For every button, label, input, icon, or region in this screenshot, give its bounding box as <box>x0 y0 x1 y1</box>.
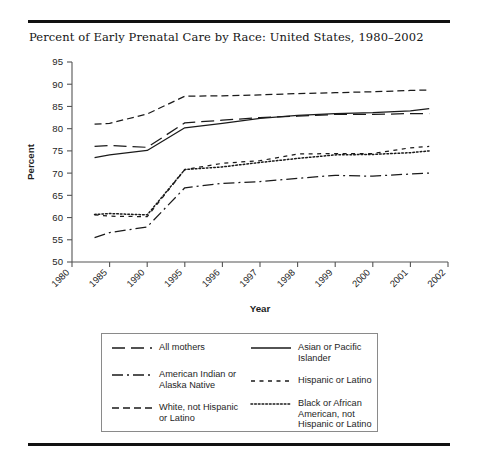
x-axis-tick-label: 1997 <box>237 267 260 290</box>
y-axis-ticks: 50556065707580859095 <box>52 56 72 267</box>
series-line <box>95 173 430 237</box>
x-axis-tick-label: 1995 <box>162 267 185 290</box>
legend-item: Black or African American, not Hispanic … <box>250 398 372 430</box>
line-chart-svg: 50556065707580859095 1980198519901995199… <box>0 50 478 320</box>
figure-container: Percent of Early Prenatal Care by Race: … <box>0 0 478 461</box>
series-line <box>95 90 430 124</box>
series-line <box>95 109 430 158</box>
legend-swatch <box>111 402 153 414</box>
legend-line-swatch-icon <box>250 398 292 410</box>
y-axis-tick-label: 70 <box>52 168 63 179</box>
legend-line-swatch-icon <box>250 375 292 387</box>
legend-item-label: All mothers <box>159 342 205 353</box>
chart-legend: All mothersAmerican Indian or Alaska Nat… <box>101 333 378 432</box>
legend-item: Asian or Pacific Islander <box>250 342 361 363</box>
y-axis-tick-label: 95 <box>52 56 63 67</box>
legend-item-label: Black or African American, not Hispanic … <box>298 398 372 430</box>
x-axis-tick-label: 1998 <box>274 267 297 290</box>
legend-line-swatch-icon <box>111 402 153 414</box>
legend-swatch <box>111 369 153 381</box>
x-axis-title: Year <box>250 303 271 314</box>
series-group <box>95 90 430 238</box>
legend-item: Hispanic or Latino <box>250 375 372 387</box>
page-title: Percent of Early Prenatal Care by Race: … <box>29 30 424 44</box>
y-axis-tick-label: 75 <box>52 145 63 156</box>
x-axis-ticks: 1980198519901995199619971998199920002001… <box>49 262 448 289</box>
x-axis-tick-label: 1980 <box>49 267 72 290</box>
legend-column-right: Asian or Pacific IslanderHispanic or Lat… <box>246 334 379 433</box>
legend-line-swatch-icon <box>111 369 153 381</box>
x-axis-tick-label: 2001 <box>387 267 410 290</box>
legend-item-label: Asian or Pacific Islander <box>298 342 361 363</box>
legend-line-swatch-icon <box>250 342 292 354</box>
legend-item: American Indian or Alaska Native <box>111 369 236 390</box>
y-axis-title: Percent <box>25 143 36 180</box>
x-axis-tick-label: 2002 <box>425 267 448 290</box>
legend-item: White, not Hispanic or Latino <box>111 402 238 423</box>
legend-swatch <box>250 398 292 410</box>
top-divider-rule <box>28 20 450 23</box>
legend-swatch <box>250 342 292 354</box>
y-axis-tick-label: 90 <box>52 79 63 90</box>
legend-swatch <box>250 375 292 387</box>
legend-item-label: White, not Hispanic or Latino <box>159 402 238 423</box>
bottom-divider-rule <box>28 443 450 446</box>
y-axis-tick-label: 50 <box>52 256 63 267</box>
y-axis-tick-label: 80 <box>52 123 63 134</box>
x-axis-tick-label: 1999 <box>312 267 335 290</box>
legend-swatch <box>111 342 153 354</box>
y-axis-tick-label: 65 <box>52 190 63 201</box>
plot-area: 50556065707580859095 1980198519901995199… <box>0 50 478 320</box>
series-line <box>95 146 430 216</box>
x-axis-tick-label: 2000 <box>350 267 373 290</box>
legend-line-swatch-icon <box>111 342 153 354</box>
legend-item-label: Hispanic or Latino <box>298 375 372 386</box>
y-axis-tick-label: 60 <box>52 212 63 223</box>
x-axis-tick-label: 1990 <box>124 267 147 290</box>
y-axis-tick-label: 55 <box>52 234 63 245</box>
legend-column-left: All mothersAmerican Indian or Alaska Nat… <box>102 334 246 433</box>
legend-item-label: American Indian or Alaska Native <box>159 369 236 390</box>
y-axis-tick-label: 85 <box>52 101 63 112</box>
legend-item: All mothers <box>111 342 205 354</box>
x-axis-tick-label: 1985 <box>86 267 109 290</box>
x-axis-tick-label: 1996 <box>199 267 222 290</box>
